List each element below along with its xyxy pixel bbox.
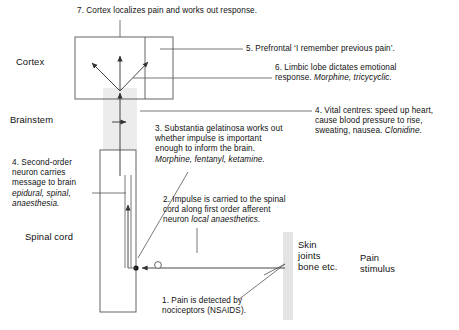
figure-caption-strip xyxy=(0,318,459,330)
leader-note-1 xyxy=(238,264,285,300)
annotation-3-text: 3. Substantia gelatinosa works out wheth… xyxy=(155,124,283,153)
region-label-spinal-cord: Spinal cord xyxy=(25,231,73,242)
annotation-4-second-order-neuron: 4. Second-order neuron carries message t… xyxy=(12,158,76,209)
skin-shading xyxy=(283,232,293,320)
annotation-6-drugs: Morphine, tricycyclic. xyxy=(314,73,392,82)
cortex-arrow-left xyxy=(92,63,120,91)
annotation-7: 7. Cortex localizes pain and works out r… xyxy=(77,6,257,16)
annotation-4-vital-drugs: Clonidine. xyxy=(385,126,422,135)
cortex-arrow-right xyxy=(120,62,148,91)
neuron-cell-body xyxy=(155,262,162,269)
region-label-pain-stimulus: Pain stimulus xyxy=(360,252,395,274)
annotation-4-neuron-text: 4. Second-order neuron carries message t… xyxy=(12,158,76,187)
region-label-skin: Skin joints bone etc. xyxy=(298,239,337,272)
annotation-1-nociceptors: 1. Pain is detected by nociceptors (NSAI… xyxy=(162,296,246,316)
annotation-4-vital-centres: 4. Vital centres: speed up heart, cause … xyxy=(315,106,433,137)
annotation-2-impulse: 2. Impulse is carried to the spinal cord… xyxy=(163,195,286,226)
annotation-3-substantia-gelatinosa: 3. Substantia gelatinosa works out wheth… xyxy=(155,124,283,165)
annotation-4-neuron-drugs: epidural, spinal, anaesthesia. xyxy=(12,189,71,208)
annotation-3-drugs: Morphine, fentanyl, ketamine. xyxy=(155,155,265,164)
annotation-6: 6. Limbic lobe dictates emotional respon… xyxy=(275,63,397,83)
annotation-5: 5. Prefrontal ‘I remember previous pain’… xyxy=(246,44,395,54)
annotation-2-drugs: local anaesthetics. xyxy=(191,215,260,224)
region-label-cortex: Cortex xyxy=(16,56,44,67)
leader-skin-branch xyxy=(264,264,285,275)
region-label-brainstem: Brainstem xyxy=(10,114,53,125)
pain-pathway-figure: Cortex Brainstem Spinal cord Skin joints… xyxy=(0,0,459,330)
